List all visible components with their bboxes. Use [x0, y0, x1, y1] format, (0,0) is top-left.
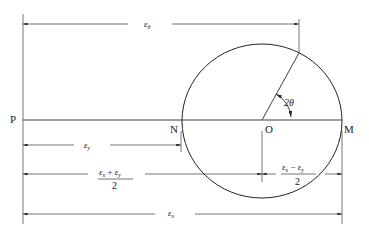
eps-y-label: εy — [84, 140, 91, 151]
point-m-label: M — [344, 123, 354, 135]
eps-theta-label: εθ — [144, 19, 151, 30]
point-n-label: N — [170, 123, 178, 135]
point-p-label: P — [10, 113, 16, 125]
half-diff-numerator: εx − εy — [282, 162, 304, 173]
avg-numerator: εx + εy — [99, 167, 121, 178]
point-o-label: O — [265, 123, 273, 135]
radius-line — [262, 53, 299, 120]
avg-denominator: 2 — [112, 180, 117, 191]
mohr-circle-diagram: P N O M 2θ εθ εy εx + εy 2 εx − εy 2 εx — [0, 0, 369, 236]
half-diff-denominator: 2 — [295, 176, 300, 187]
eps-x-label: εx — [168, 208, 175, 219]
angle-label: 2θ — [284, 97, 294, 108]
